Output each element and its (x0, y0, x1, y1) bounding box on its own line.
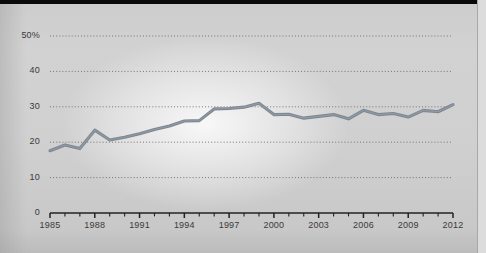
chart-svg (0, 0, 486, 253)
y-axis-tick-label: 20 (6, 136, 40, 146)
y-axis-tick-label: 10 (6, 172, 40, 182)
x-axis-tick-label: 2000 (254, 220, 294, 230)
y-axis-tick-label: 0 (6, 207, 40, 217)
screenshot-canvas: 50%403020100 198519881991199419972000200… (0, 0, 486, 253)
x-axis-tick-label: 1988 (75, 220, 115, 230)
x-axis-tick-label: 1994 (164, 220, 204, 230)
y-axis-tick-label: 40 (6, 65, 40, 75)
x-axis-tick-label: 1997 (209, 220, 249, 230)
y-axis-tick-label: 50% (6, 30, 40, 40)
data-series-line (50, 103, 453, 150)
x-axis-tick-label: 2006 (343, 220, 383, 230)
x-axis-tick-label: 1991 (120, 220, 160, 230)
x-axis-tick-label: 2009 (388, 220, 428, 230)
y-axis-tick-label: 30 (6, 101, 40, 111)
line-chart: 50%403020100 198519881991199419972000200… (0, 0, 486, 253)
x-axis-tick-label: 2012 (433, 220, 473, 230)
x-axis-tick-label: 1985 (30, 220, 70, 230)
x-axis-tick-label: 2003 (299, 220, 339, 230)
data-series-line-highlight (50, 103, 453, 150)
